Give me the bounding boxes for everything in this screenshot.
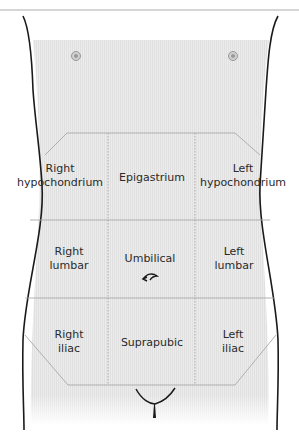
left-nipple-icon xyxy=(229,52,238,61)
abdominal-regions-diagram: Right hypochondrium Epigastrium Left hyp… xyxy=(0,0,299,438)
region-label: Right xyxy=(50,245,89,259)
region-label: Right xyxy=(17,162,103,176)
region-right-lumbar: Right lumbar xyxy=(50,245,89,273)
region-epigastrium: Epigastrium xyxy=(119,171,185,185)
region-left-lumbar: Left lumbar xyxy=(215,245,254,273)
region-label: hypochondrium xyxy=(200,176,286,190)
region-label: Suprapubic xyxy=(121,336,183,350)
region-label: Right xyxy=(55,328,84,342)
region-left-hypochondrium: Left hypochondrium xyxy=(200,162,286,190)
region-right-iliac: Right iliac xyxy=(55,328,84,356)
torso-illustration xyxy=(0,0,299,438)
region-label: iliac xyxy=(222,342,244,356)
region-label: Left xyxy=(222,328,244,342)
region-label: lumbar xyxy=(50,259,89,273)
region-label: Epigastrium xyxy=(119,171,185,185)
region-label: Umbilical xyxy=(125,252,176,266)
region-label: hypochondrium xyxy=(17,176,103,190)
region-left-iliac: Left iliac xyxy=(222,328,244,356)
region-suprapubic: Suprapubic xyxy=(121,336,183,350)
region-label: Left xyxy=(215,245,254,259)
right-nipple-icon xyxy=(72,52,81,61)
region-label: iliac xyxy=(55,342,84,356)
region-label: Left xyxy=(200,162,286,176)
torso-shading xyxy=(28,40,272,438)
region-umbilical: Umbilical xyxy=(125,252,176,266)
region-right-hypochondrium: Right hypochondrium xyxy=(17,162,103,190)
region-label: lumbar xyxy=(215,259,254,273)
